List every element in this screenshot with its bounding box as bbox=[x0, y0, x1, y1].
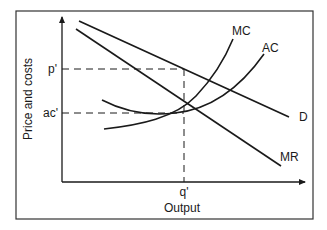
monopoly-cost-diagram: MC AC D MR p' ac' q' Output Price and co… bbox=[0, 0, 327, 230]
marginal-cost-curve bbox=[104, 39, 233, 129]
price-tick-label: p' bbox=[48, 62, 57, 76]
marginal-revenue-curve bbox=[76, 29, 281, 166]
demand-label: D bbox=[299, 110, 308, 124]
ac-label: AC bbox=[262, 41, 279, 55]
mr-label: MR bbox=[280, 150, 299, 164]
average-cost-tick-label: ac' bbox=[43, 106, 58, 120]
mc-label: MC bbox=[232, 24, 251, 38]
y-axis-title: Price and costs bbox=[21, 58, 35, 140]
x-axis-title: Output bbox=[164, 201, 201, 215]
quantity-tick-label: q' bbox=[180, 185, 189, 199]
